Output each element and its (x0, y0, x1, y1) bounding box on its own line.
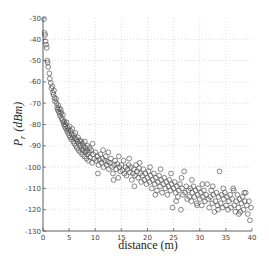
data-point (205, 182, 210, 187)
y-label-unit: (dBm) (11, 102, 25, 132)
y-tick-label: -50 (30, 57, 41, 65)
data-point (174, 199, 179, 204)
y-label-sub: r (18, 135, 27, 139)
y-tick-label: -100 (25, 164, 41, 172)
data-point (96, 171, 101, 176)
data-point (170, 205, 175, 210)
data-point (245, 212, 250, 217)
data-point (90, 141, 95, 146)
data-point (200, 182, 205, 187)
svg-text:Pr(dBm): Pr(dBm) (11, 102, 27, 147)
data-point (111, 171, 116, 176)
data-point (47, 71, 52, 76)
data-point (44, 45, 49, 50)
x-tick-label: 30 (195, 234, 204, 242)
x-tick-label: 35 (221, 234, 230, 242)
data-point (106, 150, 111, 155)
data-point (210, 184, 215, 189)
x-tick-label: 10 (91, 234, 100, 242)
x-tick-label: 0 (41, 234, 45, 242)
y-tick-label: -120 (25, 206, 41, 214)
y-tick-label: -110 (25, 185, 41, 193)
data-point (158, 167, 163, 172)
data-point (199, 203, 204, 208)
data-point (233, 209, 238, 214)
data-point (249, 205, 254, 210)
data-points (42, 17, 254, 223)
data-point (169, 171, 174, 176)
data-point (165, 192, 170, 197)
y-tick-label: -90 (30, 142, 41, 150)
data-point (127, 156, 132, 161)
data-point (132, 184, 137, 189)
x-axis-label: distance (m) (118, 238, 178, 252)
data-point (116, 175, 121, 180)
scatter-chart: 0510152025303540 -30-40-50-60-70-80-90-1… (0, 0, 269, 266)
y-tick-label: -30 (30, 15, 41, 23)
x-tick-label: 5 (67, 234, 71, 242)
y-tick-label: -70 (30, 100, 41, 108)
data-point (179, 175, 184, 180)
y-tick-label: -80 (30, 121, 41, 129)
data-point (153, 192, 158, 197)
y-tick-label: -60 (30, 78, 41, 86)
y-tick-label: -40 (30, 36, 41, 44)
data-point (121, 158, 126, 163)
y-tick-label: -130 (25, 228, 41, 236)
data-point (189, 199, 194, 204)
data-point (179, 207, 184, 212)
data-point (137, 160, 142, 165)
data-point (190, 178, 195, 183)
data-point (111, 178, 116, 183)
data-point (248, 218, 253, 223)
data-point (116, 154, 121, 159)
data-point (182, 169, 187, 174)
data-point (160, 190, 165, 195)
data-point (212, 209, 217, 214)
data-point (129, 178, 134, 183)
y-tick-labels: -30-40-50-60-70-80-90-100-110-120-130 (25, 15, 41, 236)
data-point (42, 17, 47, 22)
x-tick-label: 40 (248, 234, 257, 242)
grid-lines (43, 18, 252, 231)
data-point (217, 169, 222, 174)
data-point (101, 148, 106, 153)
y-axis-label: Pr(dBm) (11, 102, 27, 147)
data-point (207, 205, 212, 210)
